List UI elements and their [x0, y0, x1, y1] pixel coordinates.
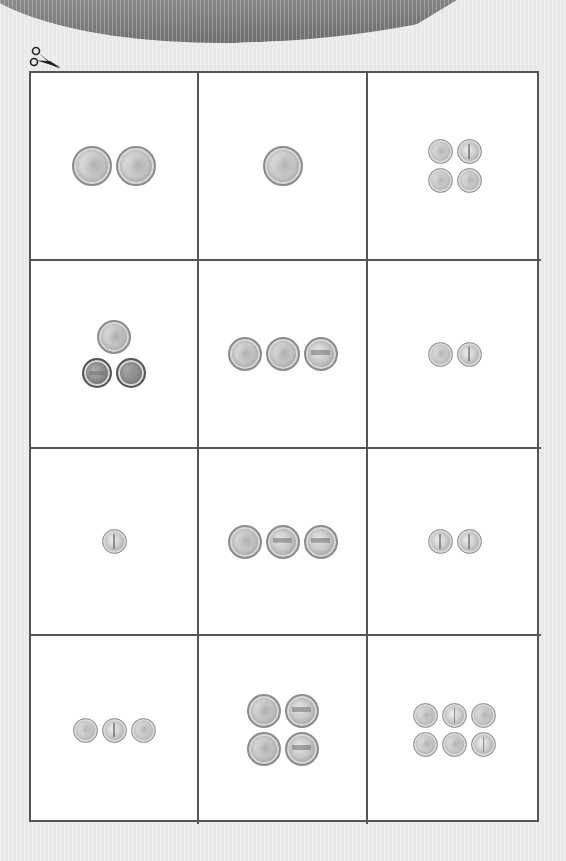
- coin-card-r3-c3: [368, 449, 541, 636]
- coin-row: [97, 320, 131, 354]
- coin-group: [263, 146, 303, 186]
- nickel-tails-icon: [285, 694, 319, 728]
- coin-card-r1-c2: [199, 73, 368, 261]
- nickel-heads-icon: [97, 320, 131, 354]
- coin-group: [428, 139, 482, 193]
- coin-card-r1-c1: [31, 73, 199, 261]
- coin-row: [102, 529, 127, 554]
- coin-group: [228, 337, 338, 371]
- coin-row: [228, 525, 338, 559]
- coin-card-r2-c1: [31, 261, 199, 449]
- nickel-heads-icon: [247, 694, 281, 728]
- coin-row: [263, 146, 303, 186]
- coin-row: [82, 358, 146, 388]
- dime-heads-icon: [471, 703, 496, 728]
- dime-tails-icon: [457, 342, 482, 367]
- coin-card-r2-c3: [368, 261, 541, 449]
- dime-tails-icon: [102, 529, 127, 554]
- coin-row: [72, 146, 156, 186]
- coin-row: [228, 337, 338, 371]
- dime-tails-icon: [428, 529, 453, 554]
- nickel-tails-icon: [285, 732, 319, 766]
- coin-card-grid: [29, 71, 539, 822]
- dime-heads-icon: [413, 703, 438, 728]
- nickel-tails-icon: [304, 525, 338, 559]
- coin-row: [247, 732, 319, 766]
- coin-group: [73, 718, 156, 743]
- coin-row: [413, 732, 496, 757]
- coin-group: [428, 342, 482, 367]
- coin-row: [428, 529, 482, 554]
- dime-heads-icon: [73, 718, 98, 743]
- coin-group: [428, 529, 482, 554]
- coin-card-r3-c2: [199, 449, 368, 636]
- dime-heads-icon: [442, 732, 467, 757]
- header-banner: [0, 0, 566, 53]
- dime-heads-icon: [428, 342, 453, 367]
- nickel-tails-icon: [304, 337, 338, 371]
- dime-heads-icon: [457, 168, 482, 193]
- coin-card-r3-c1: [31, 449, 199, 636]
- nickel-heads-icon: [247, 732, 281, 766]
- penny-heads-icon: [116, 358, 146, 388]
- coin-card-r4-c3: [368, 636, 541, 824]
- coin-group: [72, 146, 156, 186]
- dime-tails-icon: [442, 703, 467, 728]
- penny-tails-icon: [82, 358, 112, 388]
- coin-card-r4-c1: [31, 636, 199, 824]
- coin-row: [428, 168, 482, 193]
- coin-row: [428, 342, 482, 367]
- scissors-icon: [28, 45, 62, 71]
- dime-heads-icon: [428, 139, 453, 164]
- quarter-heads-icon: [263, 146, 303, 186]
- dime-heads-icon: [428, 168, 453, 193]
- nickel-tails-icon: [266, 525, 300, 559]
- coin-group: [413, 703, 496, 757]
- coin-row: [428, 139, 482, 164]
- coin-row: [413, 703, 496, 728]
- coin-row: [73, 718, 156, 743]
- nickel-heads-icon: [228, 525, 262, 559]
- coin-card-r1-c3: [368, 73, 541, 261]
- coin-group: [102, 529, 127, 554]
- dime-tails-icon: [102, 718, 127, 743]
- nickel-heads-icon: [228, 337, 262, 371]
- dime-tails-icon: [457, 139, 482, 164]
- nickel-heads-icon: [266, 337, 300, 371]
- coin-row: [247, 694, 319, 728]
- quarter-heads-icon: [116, 146, 156, 186]
- coin-group: [247, 694, 319, 766]
- dime-heads-icon: [413, 732, 438, 757]
- coin-card-r4-c2: [199, 636, 368, 824]
- coin-group: [228, 525, 338, 559]
- quarter-heads-icon: [72, 146, 112, 186]
- dime-tails-icon: [471, 732, 496, 757]
- dime-heads-icon: [131, 718, 156, 743]
- coin-group: [82, 320, 146, 388]
- dime-tails-icon: [457, 529, 482, 554]
- coin-card-r2-c2: [199, 261, 368, 449]
